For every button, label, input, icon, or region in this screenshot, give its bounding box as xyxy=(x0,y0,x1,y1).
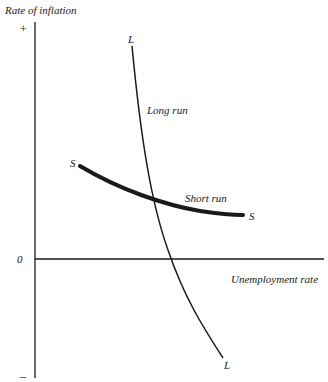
origin-label: 0 xyxy=(17,253,23,265)
phillips-curve-diagram: Rate of inflation + – 0 Unemployment rat… xyxy=(0,0,328,382)
short-run-curve xyxy=(80,166,243,215)
short-run-label: Short run xyxy=(185,192,227,204)
long-run-end-label: L xyxy=(223,359,230,371)
short-run-start-label: S xyxy=(70,157,76,169)
y-axis-label: Rate of inflation xyxy=(4,4,77,16)
y-axis-plus: + xyxy=(20,22,27,36)
y-axis-minus: – xyxy=(19,369,27,382)
long-run-start-label: L xyxy=(127,33,134,45)
short-run-end-label: S xyxy=(249,210,255,222)
x-axis-label: Unemployment rate xyxy=(231,273,318,285)
long-run-label: Long run xyxy=(146,104,188,116)
